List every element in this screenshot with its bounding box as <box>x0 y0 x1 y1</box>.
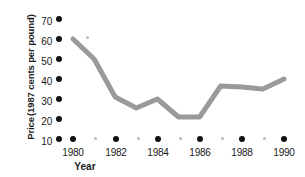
price-per-pound-line-chart: Price (1987 cents per pound) 70 60 50 40… <box>0 0 305 177</box>
price-series-line <box>73 39 284 117</box>
data-line-layer <box>0 0 305 177</box>
